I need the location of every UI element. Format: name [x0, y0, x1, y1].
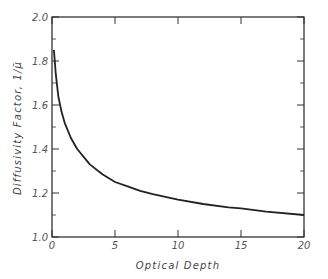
x-tick-label: 0 [49, 240, 55, 251]
x-tick-label: 10 [172, 240, 185, 251]
y-tick-label: 2.0 [32, 12, 48, 23]
x-axis-ticks: 05101520 [49, 17, 311, 251]
y-axis-label: Diffusivity Factor, 1/μ̄ [12, 61, 23, 195]
chart: 1.01.21.41.61.82.0 05101520 Optical Dept… [0, 0, 328, 279]
y-axis-ticks: 1.01.21.41.61.82.0 [32, 12, 304, 243]
y-tick-label: 1.2 [32, 188, 48, 199]
plot-border [52, 17, 304, 237]
x-tick-label: 20 [298, 240, 311, 251]
y-tick-label: 1.8 [32, 56, 48, 67]
x-tick-label: 5 [112, 240, 118, 251]
diffusivity-curve [54, 50, 304, 215]
x-axis-label: Optical Depth [136, 260, 221, 271]
y-tick-label: 1.6 [32, 100, 48, 111]
x-tick-label: 15 [235, 240, 248, 251]
y-tick-label: 1.0 [32, 232, 48, 243]
plot-frame [52, 17, 304, 237]
y-tick-label: 1.4 [32, 144, 48, 155]
